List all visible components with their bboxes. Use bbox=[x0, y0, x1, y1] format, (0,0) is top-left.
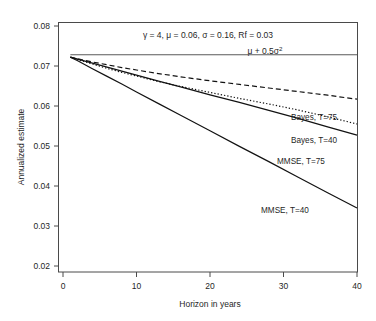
chart-title: γ = 4, μ = 0.06, σ = 0.16, Rf = 0.03 bbox=[143, 30, 273, 40]
y-axis-ticks bbox=[54, 26, 59, 266]
y-tick-label-0.08: 0.08 bbox=[33, 21, 50, 31]
y-tick-label-0.03: 0.03 bbox=[33, 221, 50, 231]
y-axis-title: Annualized estimate bbox=[16, 108, 26, 185]
series-label-mmse-t75: MMSE, T=75 bbox=[277, 157, 325, 166]
line-chart: 0.08 0.07 0.06 0.05 0.04 0.03 0.02 0 10 … bbox=[0, 0, 376, 321]
x-axis-ticks bbox=[63, 272, 357, 277]
reference-line-label-exponent: 2 bbox=[279, 45, 283, 52]
y-tick-label-0.05: 0.05 bbox=[33, 141, 50, 151]
x-tick-label-10: 10 bbox=[132, 281, 142, 291]
y-tick-label-0.02: 0.02 bbox=[33, 261, 50, 271]
series-line-bayes-t75 bbox=[70, 57, 357, 99]
series-line-mmse-t40 bbox=[70, 57, 357, 208]
x-tick-label-0: 0 bbox=[61, 281, 66, 291]
series-label-bayes-t75: Bayes, T=75 bbox=[291, 113, 337, 122]
y-tick-label-0.07: 0.07 bbox=[33, 61, 50, 71]
x-tick-label-40: 40 bbox=[352, 281, 362, 291]
series-label-mmse-t40: MMSE, T=40 bbox=[261, 206, 309, 215]
chart-figure: 0.08 0.07 0.06 0.05 0.04 0.03 0.02 0 10 … bbox=[0, 0, 376, 321]
plot-frame bbox=[59, 23, 358, 273]
x-tick-label-30: 30 bbox=[279, 281, 289, 291]
y-tick-label-0.06: 0.06 bbox=[33, 101, 50, 111]
series-line-mmse-t75 bbox=[70, 57, 357, 135]
series-label-bayes-t40: Bayes, T=40 bbox=[291, 136, 337, 145]
x-tick-label-20: 20 bbox=[205, 281, 215, 291]
y-tick-label-0.04: 0.04 bbox=[33, 181, 50, 191]
x-axis-title: Horizon in years bbox=[179, 299, 240, 309]
